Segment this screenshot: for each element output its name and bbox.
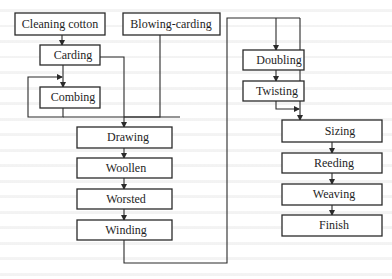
node-twisting: Twisting (243, 81, 304, 101)
node-carding: Carding (40, 45, 100, 65)
node-label: Carding (54, 48, 93, 62)
node-label: Weaving (313, 187, 355, 201)
node-combing: Combing (40, 87, 100, 108)
process-flowchart: Cleaning cotton Blowing-carding Carding … (0, 0, 392, 279)
node-cleaning-cotton: Cleaning cotton (15, 13, 105, 35)
node-worsted: Worsted (77, 189, 172, 209)
node-label: Woollen (106, 161, 146, 175)
edge-blowing-carding-to-drawing (124, 35, 160, 117)
node-label: Finish (319, 218, 349, 232)
node-label: Worsted (106, 192, 146, 206)
edge-twisting-to-sizing (276, 101, 299, 109)
node-reeding: Reeding (282, 153, 382, 173)
node-doubling: Doubling (243, 50, 304, 70)
node-blowing-carding: Blowing-carding (123, 13, 220, 35)
node-weaving: Weaving (282, 184, 382, 205)
node-sizing: Sizing (282, 120, 382, 142)
node-label: Cleaning cotton (22, 17, 98, 31)
node-label: Combing (51, 90, 96, 104)
node-label: Sizing (325, 124, 356, 138)
node-label: Winding (105, 223, 147, 237)
node-finish: Finish (282, 215, 382, 236)
node-winding: Winding (77, 220, 172, 240)
node-drawing: Drawing (77, 127, 172, 148)
node-label: Doubling (256, 53, 301, 67)
node-woollen: Woollen (77, 158, 172, 178)
node-label: Drawing (107, 130, 149, 144)
node-label: Reeding (314, 156, 354, 170)
node-label: Blowing-carding (130, 17, 211, 31)
node-label: Twisting (256, 84, 298, 98)
